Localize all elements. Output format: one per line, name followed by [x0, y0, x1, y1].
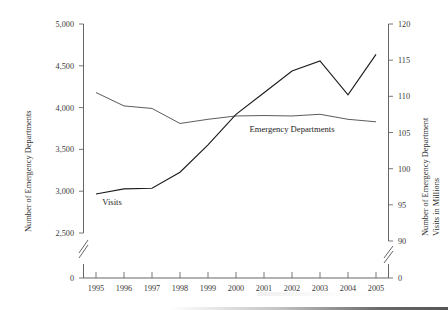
series-line-emergency-departments [96, 93, 376, 124]
series-label-visits: Visits [102, 197, 122, 207]
right-tick-label-0: 0 [398, 274, 402, 283]
left-tick-label-5000: 5,000 [56, 20, 74, 29]
right-tick-label-95: 95 [398, 201, 406, 210]
x-tick-label-1999: 1999 [200, 284, 216, 293]
left-tick-label-4000: 4,000 [56, 104, 74, 113]
right-tick-label-100: 100 [398, 165, 410, 174]
right-axis: 120 115 110 105 100 95 90 0 Number of Em… [384, 20, 441, 283]
right-tick-label-115: 115 [398, 56, 410, 65]
x-tick-label-2000: 2000 [228, 284, 244, 293]
right-tick-label-110: 110 [398, 92, 410, 101]
left-tick-label-0: 0 [70, 274, 74, 283]
right-tick-label-120: 120 [398, 20, 410, 29]
left-axis: 5,000 4,500 4,000 3,500 3,000 2,500 0 Nu… [24, 20, 88, 283]
chart-figure: 5,000 4,500 4,000 3,500 3,000 2,500 0 Nu… [0, 0, 448, 310]
scan-artifact-speckle [258, 292, 378, 296]
series-label-emergency-departments: Emergency Departments [249, 124, 335, 134]
x-axis: 1995 1996 1997 1998 1999 2000 2001 2002 … [84, 272, 389, 293]
x-tick-label-1995: 1995 [88, 284, 104, 293]
left-tick-label-3500: 3,500 [56, 145, 74, 154]
left-tick-label-3000: 3,000 [56, 187, 74, 196]
left-tick-label-4500: 4,500 [56, 62, 74, 71]
right-axis-break-mark-2 [384, 251, 393, 263]
right-tick-label-105: 105 [398, 129, 410, 138]
right-tick-label-90: 90 [398, 237, 406, 246]
left-tick-label-2500: 2,500 [56, 229, 74, 238]
left-axis-title: Number of Emergency Departments [24, 111, 33, 232]
x-tick-label-1998: 1998 [172, 284, 188, 293]
x-tick-label-1997: 1997 [144, 284, 160, 293]
dual-axis-line-chart: 5,000 4,500 4,000 3,500 3,000 2,500 0 Nu… [0, 0, 448, 310]
x-tick-label-1996: 1996 [116, 284, 132, 293]
right-axis-title-line2: Visits in Millions [432, 178, 441, 236]
right-axis-title-line1: Number of Emergency Department [421, 117, 430, 236]
right-axis-break-mark-1 [384, 246, 393, 258]
